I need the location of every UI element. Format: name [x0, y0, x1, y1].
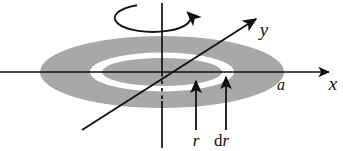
x-axis-label: x	[328, 73, 338, 94]
figure-container: x y a r dr	[0, 0, 343, 151]
dr-label-variable: r	[223, 131, 230, 150]
y-axis-label: y	[258, 19, 269, 40]
disk-edge-label: a	[277, 76, 285, 93]
rotation-arrow	[115, 5, 191, 32]
r-label: r	[193, 131, 200, 150]
rotating-disk-diagram: x y a r dr	[0, 0, 343, 151]
dr-label: dr	[214, 131, 230, 150]
rotation-arrow-icon	[115, 5, 191, 32]
